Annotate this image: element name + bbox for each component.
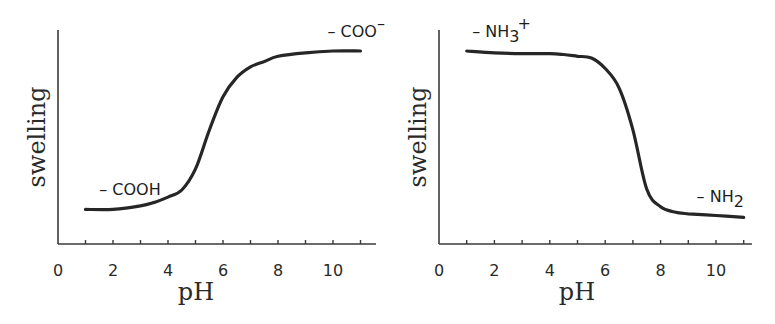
x-tick-label: 8 bbox=[273, 261, 283, 280]
x-tick-label: 10 bbox=[706, 261, 726, 280]
x-tick-label: 6 bbox=[218, 261, 228, 280]
chart-panel-cationic: 0246810 pH swelling – NH3+– NH2 bbox=[404, 14, 752, 306]
x-tick-label: 0 bbox=[434, 261, 444, 280]
x-tick-label: 2 bbox=[108, 261, 118, 280]
x-axis-label: pH bbox=[559, 278, 595, 306]
x-tick-label: 10 bbox=[323, 261, 343, 280]
x-axis-label: pH bbox=[178, 278, 214, 306]
x-tick-label: 8 bbox=[656, 261, 666, 280]
curve-annotation: – NH3+ bbox=[472, 14, 531, 46]
y-axis-label: swelling bbox=[23, 87, 51, 188]
figure: 0246810 pH swelling – COOH– COO– 0246810… bbox=[0, 0, 775, 324]
annotations: – NH3+– NH2 bbox=[472, 14, 744, 211]
chart-panel-anionic: 0246810 pH swelling – COOH– COO– bbox=[23, 14, 385, 306]
curve-annotation: – NH2 bbox=[697, 187, 744, 211]
x-tick-label: 2 bbox=[489, 261, 499, 280]
curve-annotation: – COO– bbox=[328, 14, 385, 41]
annotations: – COOH– COO– bbox=[99, 14, 385, 199]
curve-annotation: – COOH bbox=[99, 180, 160, 199]
x-tick-label: 6 bbox=[600, 261, 610, 280]
x-tick-label: 0 bbox=[53, 261, 63, 280]
y-axis-label: swelling bbox=[404, 87, 432, 188]
x-tick-label: 4 bbox=[163, 261, 173, 280]
x-tick-label: 4 bbox=[545, 261, 555, 280]
